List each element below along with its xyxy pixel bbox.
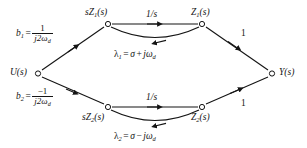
node-label-sz2: sZ2(s) (82, 113, 104, 123)
arrowhead-bottom-right-to-output (230, 89, 241, 94)
node-label-z1: Z1(s) (191, 8, 210, 18)
node-label-sz1: sZ1(s) (85, 8, 107, 18)
edge-gain-one-top: 1 (241, 29, 246, 39)
equation-lambda-2: λ2=σ−jωd (114, 132, 156, 142)
arrowhead-top-right-to-output (228, 42, 239, 50)
node-label-z2: Z2(s) (191, 113, 210, 123)
equation-lambda-1: λ1=σ+jωd (114, 50, 156, 60)
edge-bottom-right-to-output (206, 77, 268, 104)
edge-top-right-to-output (206, 27, 268, 70)
node-sz2 (105, 104, 110, 109)
node-sz1 (105, 21, 110, 26)
edge-gain-inv-s-top: 1/s (146, 10, 157, 20)
node-z1 (199, 21, 204, 26)
node-z2 (199, 104, 204, 109)
edge-bottom-feedback (111, 110, 199, 126)
node-input-u (35, 71, 40, 76)
diagram-canvas: U(s) Y(s) sZ1(s) Z1(s) sZ2(s) Z2(s) b1=1… (0, 0, 307, 148)
node-label-input-u: U(s) (10, 68, 27, 78)
arrowhead-top-feedback (154, 40, 166, 43)
edge-gain-b1: b1=1j2ωd (16, 24, 53, 44)
node-label-output-y: Y(s) (279, 68, 294, 78)
arrowhead-bottom-feedback (154, 123, 166, 126)
edge-gain-one-bottom: 1 (241, 99, 246, 109)
node-output-y (269, 71, 274, 76)
edge-gain-b2: b2=−1j2ωd (16, 87, 53, 107)
arrowhead-input-to-top-left (68, 46, 77, 52)
edge-gain-inv-s-bottom: 1/s (146, 93, 157, 103)
signal-flow-graph (0, 0, 307, 148)
edge-top-feedback (111, 27, 199, 43)
